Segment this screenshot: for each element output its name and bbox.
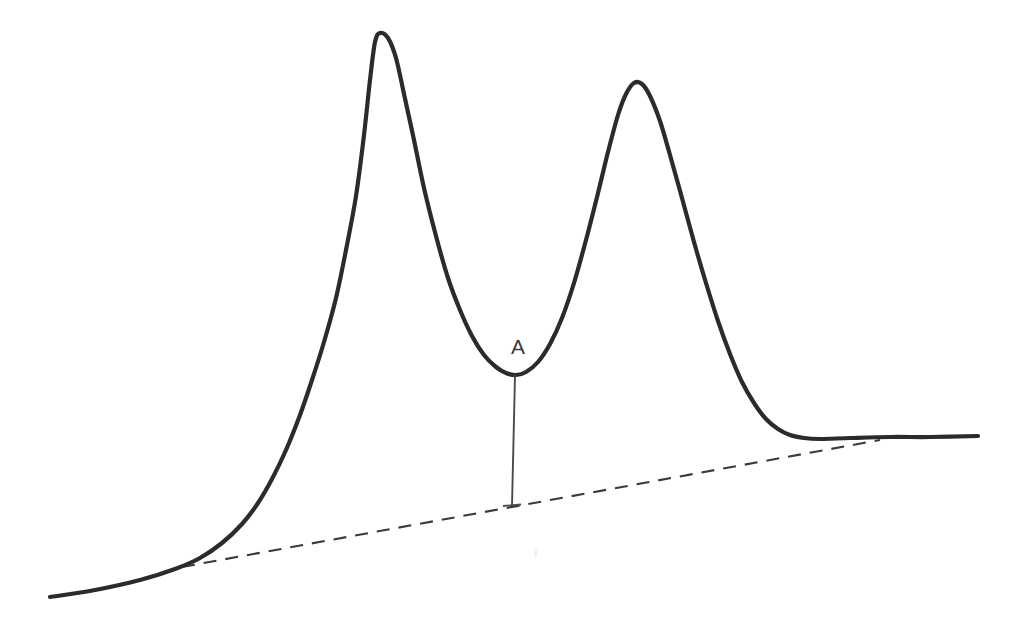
scan-artifact-speck (534, 549, 537, 557)
chromatogram-figure: A (0, 0, 1014, 631)
chromatogram-plot: A (0, 0, 1014, 631)
plot-background (0, 0, 1014, 631)
valley-label-a: A (511, 335, 525, 358)
